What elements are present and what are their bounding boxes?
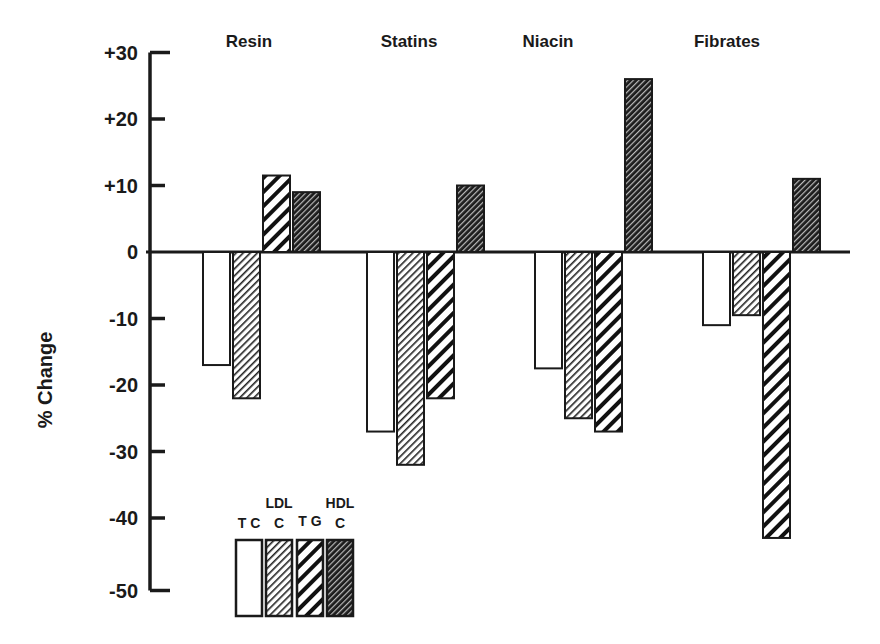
bar-resin-tc <box>203 252 230 365</box>
legend-label: C <box>274 515 284 531</box>
group-label-statins: Statins <box>381 32 438 51</box>
bar-fibrates-ldl-c <box>733 252 760 315</box>
bar-fibrates-tg <box>763 252 790 538</box>
y-tick-label: +20 <box>104 108 138 130</box>
svg-text:% Change: % Change <box>34 332 56 429</box>
drug-class-labels: ResinStatinsNiacinFibrates <box>226 32 760 51</box>
y-tick-label: -50 <box>109 580 138 602</box>
bar-niacin-tg <box>595 252 622 432</box>
lipid-change-bar-chart: +30+20+100-10-20-30-40-50 ResinStatinsNi… <box>0 0 880 644</box>
legend-swatch-hdl-c <box>327 540 353 616</box>
bar-resin-tg <box>263 176 290 252</box>
legend-label: LDL <box>265 495 293 511</box>
legend-swatch-tc <box>236 540 262 616</box>
bar-statins-tc <box>367 252 394 432</box>
legend: T CLDLCT GHDLC <box>236 495 355 616</box>
y-axis-title: % Change <box>34 332 56 429</box>
group-label-niacin: Niacin <box>522 32 573 51</box>
y-tick-label: -10 <box>109 308 138 330</box>
group-label-fibrates: Fibrates <box>694 32 760 51</box>
y-axis: +30+20+100-10-20-30-40-50 <box>104 42 170 602</box>
legend-label: C <box>335 515 345 531</box>
y-tick-label: 0 <box>127 241 138 263</box>
legend-swatch-tg <box>297 540 323 616</box>
bar-fibrates-tc <box>703 252 730 325</box>
y-tick-label: -40 <box>109 507 138 529</box>
bar-resin-ldl-c <box>233 252 260 398</box>
bar-statins-tg <box>427 252 454 398</box>
legend-label: T G <box>298 513 321 529</box>
legend-label: T C <box>238 515 261 531</box>
bars <box>203 79 820 538</box>
bar-niacin-tc <box>535 252 562 368</box>
bar-fibrates-hdl-c <box>793 179 820 252</box>
bar-niacin-hdl-c <box>625 79 652 252</box>
y-tick-label: +10 <box>104 175 138 197</box>
legend-swatch-ldl-c <box>266 540 292 616</box>
group-label-resin: Resin <box>226 32 272 51</box>
y-tick-label: +30 <box>104 42 138 64</box>
bar-resin-hdl-c <box>293 192 320 252</box>
bar-statins-hdl-c <box>457 186 484 253</box>
bar-niacin-ldl-c <box>565 252 592 418</box>
y-tick-label: -20 <box>109 374 138 396</box>
bar-statins-ldl-c <box>397 252 424 465</box>
legend-label: HDL <box>326 495 355 511</box>
y-tick-label: -30 <box>109 441 138 463</box>
